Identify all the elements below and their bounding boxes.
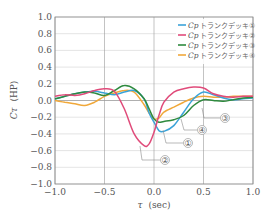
callout-3: ③ (221, 114, 228, 123)
legend-item-2: Cp トランクデッキ② (178, 31, 255, 40)
legend: Cp トランクデッキ① Cp トランクデッキ② Cp トランクデッキ③ Cp ト… (176, 19, 255, 64)
callout-2: ② (161, 156, 168, 165)
x-tick-label: −0.5 (94, 187, 116, 197)
y-tick-label: 0.2 (38, 79, 52, 89)
y-tick-label: 1.0 (38, 12, 53, 22)
y-axis-ticks: 1.00.80.60.40.20.0−0.2−0.4−0.6−0.8−1.0 (30, 12, 52, 189)
legend-item-4: Cp トランクデッキ④ (178, 51, 255, 60)
y-tick-label: 0.8 (38, 29, 53, 39)
x-axis-ticks: −1.0−0.50.00.51.0 (44, 187, 260, 197)
y-axis-label: Cτ (HP) (9, 81, 19, 120)
y-tick-label: −0.4 (30, 129, 52, 139)
legend-item-3: Cp トランクデッキ③ (178, 41, 255, 50)
x-axis-label: τ (sec) (138, 200, 171, 210)
callout-4: ④ (198, 126, 205, 135)
x-tick-label: −1.0 (44, 187, 66, 197)
callout-1: ① (184, 139, 191, 148)
legend-symbol-3: Cp (188, 41, 199, 50)
svg-text:τ (sec): τ (sec) (138, 200, 171, 210)
legend-label-2: トランクデッキ② (200, 31, 255, 40)
x-tick-label: 1.0 (246, 187, 261, 197)
y-tick-label: −0.2 (30, 112, 52, 122)
x-tick-label: 0.5 (196, 187, 211, 197)
legend-item-1: Cp トランクデッキ① (178, 21, 255, 30)
x-tick-label: 0.0 (147, 187, 162, 197)
y-tick-label: −0.8 (30, 162, 52, 172)
legend-symbol-4: Cp (188, 51, 199, 60)
legend-label-3: トランクデッキ③ (200, 41, 255, 50)
legend-label-1: トランクデッキ① (200, 21, 255, 30)
svg-text:Cτ (HP): Cτ (HP) (9, 81, 19, 120)
x-axis-unit: (sec) (148, 200, 170, 210)
y-tick-label: 0.4 (38, 62, 53, 72)
correlation-chart: 1.00.80.60.40.20.0−0.2−0.4−0.6−0.8−1.0 −… (0, 0, 273, 217)
y-tick-label: 0.0 (38, 96, 53, 106)
legend-symbol-1: Cp (188, 21, 199, 30)
legend-symbol-2: Cp (188, 31, 199, 40)
legend-label-4: トランクデッキ④ (200, 51, 255, 60)
x-axis-symbol: τ (138, 200, 144, 210)
y-axis-unit: (HP) (9, 81, 19, 102)
y-tick-label: 0.6 (38, 45, 53, 55)
y-axis-symbol: Cτ (9, 106, 19, 119)
y-tick-label: −0.6 (30, 146, 52, 156)
